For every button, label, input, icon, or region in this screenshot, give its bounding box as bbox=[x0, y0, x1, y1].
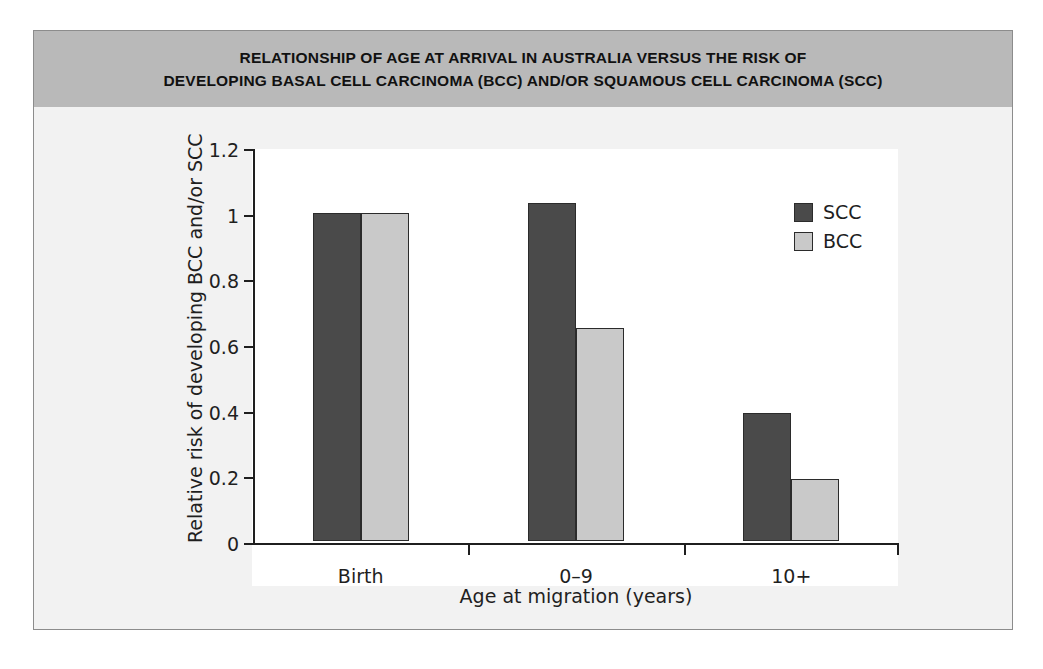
bar-bcc-2 bbox=[791, 479, 839, 541]
x-tick-mark bbox=[684, 545, 686, 555]
bar-scc-0 bbox=[313, 213, 361, 541]
chart-legend: SCCBCC bbox=[794, 199, 862, 257]
legend-label-bcc: BCC bbox=[823, 230, 862, 252]
legend-item-bcc: BCC bbox=[794, 228, 862, 254]
legend-item-scc: SCC bbox=[794, 199, 862, 225]
y-tick-label: 0.6 bbox=[209, 336, 239, 358]
bar-scc-1 bbox=[528, 203, 576, 541]
x-axis-line bbox=[253, 543, 899, 545]
bar-bcc-1 bbox=[576, 328, 624, 541]
y-tick-label: 0.2 bbox=[209, 467, 239, 489]
legend-swatch-bcc bbox=[794, 232, 813, 251]
y-tick-mark bbox=[244, 346, 253, 348]
y-tick-label: 1.2 bbox=[209, 139, 239, 161]
chart-region: Relative risk of developing BCC and/or S… bbox=[34, 107, 1012, 629]
x-tick-mark bbox=[468, 545, 470, 555]
legend-swatch-scc bbox=[794, 203, 813, 222]
y-axis-title: Relative risk of developing BCC and/or S… bbox=[182, 149, 208, 543]
y-tick-label: 0.8 bbox=[209, 270, 239, 292]
chart-title-line-2: DEVELOPING BASAL CELL CARCINOMA (BCC) AN… bbox=[163, 69, 882, 92]
y-tick-label: 1 bbox=[227, 205, 239, 227]
figure-frame: RELATIONSHIP OF AGE AT ARRIVAL IN AUSTRA… bbox=[33, 30, 1013, 630]
x-tick-label: Birth bbox=[338, 565, 384, 587]
x-tick-label: 10+ bbox=[771, 565, 811, 587]
bar-scc-2 bbox=[743, 413, 791, 541]
y-tick-mark bbox=[244, 412, 253, 414]
legend-label-scc: SCC bbox=[823, 201, 862, 223]
chart-title-line-1: RELATIONSHIP OF AGE AT ARRIVAL IN AUSTRA… bbox=[240, 46, 807, 69]
x-axis-title: Age at migration (years) bbox=[253, 585, 899, 607]
y-tick-mark bbox=[244, 149, 253, 151]
y-tick-label: 0 bbox=[227, 533, 239, 555]
y-tick-mark bbox=[244, 477, 253, 479]
x-tick-label: 0–9 bbox=[559, 565, 593, 587]
y-tick-mark bbox=[244, 280, 253, 282]
x-tick-mark bbox=[897, 545, 899, 555]
y-axis-line bbox=[253, 149, 255, 545]
y-tick-mark bbox=[244, 215, 253, 217]
bar-bcc-0 bbox=[361, 213, 409, 541]
y-tick-label: 0.4 bbox=[209, 402, 239, 424]
chart-title-banner: RELATIONSHIP OF AGE AT ARRIVAL IN AUSTRA… bbox=[34, 31, 1012, 107]
y-tick-mark bbox=[244, 543, 253, 545]
